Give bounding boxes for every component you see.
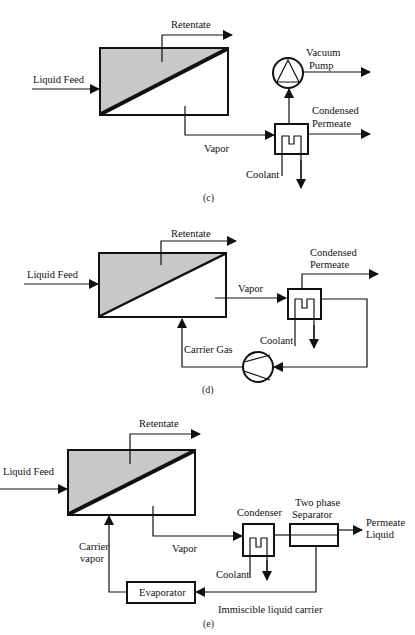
immiscible-carrier-label: Immiscible liquid carrier [218,604,323,615]
permeate-liquid-label-1: Permeate [366,517,405,528]
retentate-label: Retentate [171,19,211,30]
condensed-permeate-label-1: Condensed [310,247,357,258]
panel-e-immiscible-carrier-pervaporation: Liquid Feed Retentate Vapor Condenser Co… [0,418,405,630]
pervaporation-configurations-diagram: Liquid Feed Retentate Vapor Coolant Vacu… [0,0,415,635]
vapor-label: Vapor [172,543,198,554]
caption-e: (e) [203,618,214,630]
condenser-label: Condenser [237,507,282,518]
liquid-feed-label: Liquid Feed [3,466,55,477]
vacuum-pump-label-1: Vacuum [306,47,340,58]
vapor-label: Vapor [204,143,230,154]
condensed-permeate-label-1: Condensed [312,105,359,116]
carrier-vapor-label-1: Carrier [79,541,109,552]
vacuum-pump-icon [273,58,303,88]
separator-label-2: Separator [292,509,333,520]
evaporator: Evaporator [127,582,195,603]
condenser [275,124,308,184]
svg-text:Evaporator: Evaporator [139,587,186,598]
permeate-liquid-label-2: Liquid [366,529,395,540]
membrane-module [100,48,228,115]
caption-c: (c) [203,192,214,204]
condensed-permeate-label-2: Permeate [312,118,351,129]
carrier-gas-label: Carrier Gas [184,344,233,355]
carrier-vapor-label-2: vapor [80,553,104,564]
coolant-label: Coolant [260,335,293,346]
liquid-feed-label: Liquid Feed [33,74,85,85]
condensed-permeate-arrow [302,274,378,289]
separator-label-1: Two phase [295,497,340,508]
carrier-vapor-arrow [109,516,127,592]
retentate-label: Retentate [171,228,211,239]
panel-c-vacuum-pervaporation: Liquid Feed Retentate Vapor Coolant Vacu… [32,19,370,204]
membrane-module [99,253,226,317]
retentate-label: Retentate [139,418,179,429]
membrane-module [68,450,195,515]
condensed-permeate-label-2: Permeate [310,259,349,270]
caption-d: (d) [202,384,214,396]
two-phase-separator [290,524,338,546]
carrier-gas-arrow [182,319,243,367]
liquid-feed-label: Liquid Feed [27,269,79,280]
vacuum-pump-label-2: Pump [309,60,334,71]
vapor-line [153,506,242,536]
compressor-icon [243,352,273,382]
coolant-label: Coolant [246,169,279,180]
panel-d-sweep-gas-pervaporation: Liquid Feed Retentate Vapor Coolant Cond… [24,228,378,396]
vapor-label: Vapor [238,283,264,294]
coolant-label: Coolant [216,569,249,580]
